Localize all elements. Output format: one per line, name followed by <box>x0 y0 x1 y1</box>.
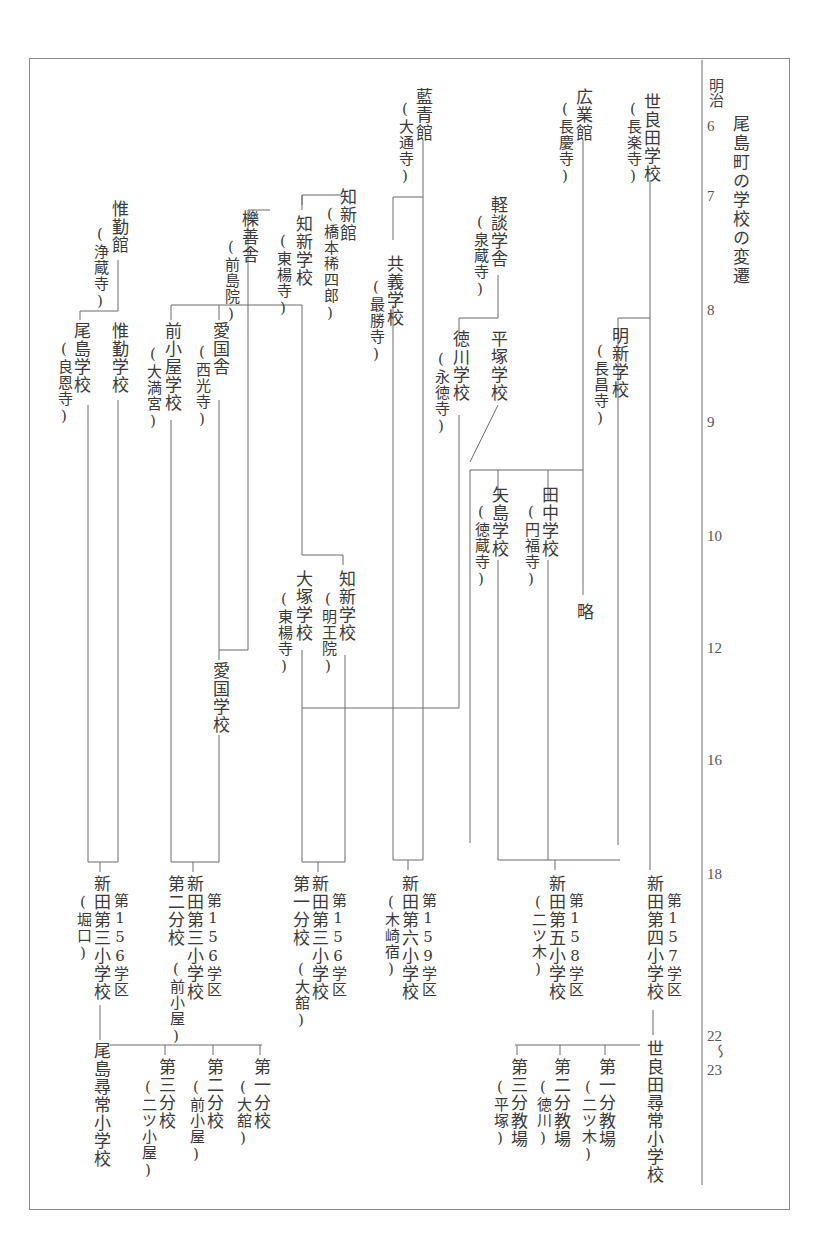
nitta-3-b2-name: 新田第三小学校 <box>185 875 203 1001</box>
school-yajima: 矢島学校 <box>490 486 508 558</box>
serada-branch-2: 第二分教場 <box>552 1058 570 1148</box>
school-ojima: 尾島学校 <box>72 322 90 394</box>
ojima-branch-2-note: (前小屋) <box>188 1078 204 1164</box>
ojima-branch-1: 第一分校 <box>252 1058 270 1130</box>
nitta-3-b1-district: 第156学区 <box>330 893 346 998</box>
nitta-3-district: 第156学区 <box>112 893 128 998</box>
school-chishinkan-note: (橋本稀四郎) <box>322 205 338 323</box>
era-label: 明治 <box>707 78 723 108</box>
school-rekizensha-note: (前島院) <box>223 238 239 324</box>
school-kyogi-note: (最勝寺) <box>368 278 384 364</box>
nitta-5-name: 新田第五小学校 <box>547 875 565 1001</box>
nitta-3-b2-branch: 第二分校 <box>166 875 184 947</box>
school-kyogi: 共義学校 <box>385 255 403 327</box>
nitta-5-district: 第158学区 <box>567 893 583 998</box>
nitta-3-note: (堀口) <box>75 893 91 963</box>
year-22: 22 <box>707 1028 722 1045</box>
serada-branch-2-note: (徳川) <box>535 1078 551 1148</box>
year-18: 18 <box>707 866 722 883</box>
ojima-branch-1-note: (大舘) <box>235 1078 251 1148</box>
school-serada-note: (長楽寺) <box>625 100 641 186</box>
school-aioseikan-note: (大通寺) <box>397 100 413 186</box>
nitta-4-district: 第157学区 <box>665 893 681 998</box>
school-ishin: 惟勤学校 <box>110 322 128 394</box>
school-ishinkan: 惟勤館 <box>110 200 128 254</box>
school-kogyokan-note: (長慶寺) <box>557 100 573 186</box>
school-rekizensha: 櫟善舎 <box>240 210 258 264</box>
ojima-branch-2: 第二分校 <box>205 1058 223 1130</box>
ojima-branch-3-note: (二ツ小屋) <box>140 1078 156 1180</box>
nitta-4-name: 新田第四小学校 <box>645 875 663 1001</box>
nitta-3-name: 新田第三小学校 <box>92 875 110 1001</box>
omitted-label: 略 <box>575 603 593 621</box>
school-maegoya-note: (大満宮) <box>145 345 161 431</box>
school-otsuka: 大塚学校 <box>294 570 312 642</box>
school-chishinkan: 知新館 <box>338 188 356 242</box>
diagram-frame <box>29 58 790 1210</box>
school-serada: 世良田学校 <box>642 93 660 183</box>
school-tanaka-note: (円福寺) <box>523 503 539 589</box>
nitta-3-b1-note: (大舘) <box>293 960 309 1030</box>
serada-jinjo: 世良田尋常小学校 <box>645 1040 663 1184</box>
school-meishin: 明新学校 <box>610 327 628 399</box>
school-aioseikan: 藍青館 <box>414 88 432 142</box>
school-chishin-myooin-note: (明王院) <box>320 590 336 676</box>
school-aikokusha-note: (西光寺) <box>194 343 210 429</box>
school-hiratsuka: 平塚学校 <box>489 330 507 402</box>
year-10: 10 <box>707 528 722 545</box>
school-ojima-note: (良恩寺) <box>56 340 72 426</box>
ojima-branch-3: 第三分校 <box>157 1058 175 1130</box>
year-8: 8 <box>707 302 715 319</box>
school-keidan: 軽談学舎 <box>489 196 507 268</box>
year-6: 6 <box>707 118 715 135</box>
serada-branch-3: 第三分教場 <box>509 1058 527 1148</box>
school-maegoya: 前小屋学校 <box>163 322 181 412</box>
school-kogyokan: 広業館 <box>574 88 592 142</box>
nitta-6-name: 新田第六小学校 <box>400 875 418 1001</box>
school-chishin-toyoji: 知新学校 <box>294 215 312 287</box>
school-meishin-note: (長昌寺) <box>592 342 608 428</box>
nitta-6-note: (木崎宿) <box>383 893 399 979</box>
serada-branch-3-note: (平塚) <box>492 1078 508 1148</box>
year-23: 23 <box>707 1062 722 1079</box>
school-tokugawa-note: (永徳寺) <box>433 350 449 436</box>
school-tanaka: 田中学校 <box>540 486 558 558</box>
ojima-jinjo: 尾島尋常小学校 <box>92 1042 110 1168</box>
page-title: 尾島町の学校の変遷 <box>731 115 749 286</box>
serada-branch-1: 第一分教場 <box>597 1058 615 1148</box>
year-16: 16 <box>707 752 722 769</box>
nitta-3-b2-note: (前小屋) <box>168 960 184 1046</box>
school-chishin-toyoji-note: (東楊寺) <box>275 232 291 318</box>
school-tokugawa: 徳川学校 <box>451 330 469 402</box>
nitta-3-b2-district: 第156学区 <box>205 893 221 998</box>
nitta-3-b1-branch: 第一分校 <box>291 875 309 947</box>
school-aikokusha: 愛国舎 <box>211 322 229 376</box>
year-range-tilde: 〜 <box>709 1044 730 1059</box>
nitta-3-b1-name: 新田第三小学校 <box>310 875 328 1001</box>
nitta-6-district: 第159学区 <box>420 893 436 998</box>
school-keidan-note: (泉蔵寺) <box>472 213 488 299</box>
year-12: 12 <box>707 640 722 657</box>
school-aikoku: 愛国学校 <box>211 662 229 734</box>
nitta-5-note: (二ツ木) <box>530 893 546 979</box>
school-ishinkan-note: (浄蔵寺) <box>92 225 108 311</box>
school-otsuka-note: (東楊寺) <box>276 590 292 676</box>
school-yajima-note: (徳蔵寺) <box>473 503 489 589</box>
year-7: 7 <box>707 188 715 205</box>
school-chishin-myooin: 知新学校 <box>337 570 355 642</box>
year-9: 9 <box>707 414 715 431</box>
serada-branch-1-note: (二ツ木) <box>580 1078 596 1164</box>
